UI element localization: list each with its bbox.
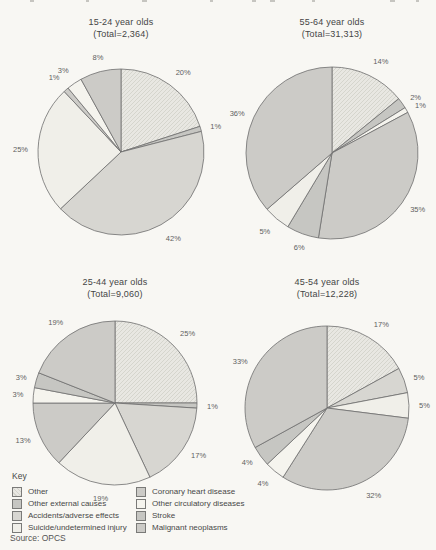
legend-item-other-external-causes: Other external causes <box>12 498 127 509</box>
pie-slice-percent-label: 6% <box>294 243 305 252</box>
pie-slice-percent-label: 19% <box>48 318 63 327</box>
legend-swatch <box>12 499 22 509</box>
pie-chart-15-24: 20%1%42%25%1%3%8% <box>13 53 221 243</box>
pie-slice-percent-label: 17% <box>374 320 389 329</box>
pie-slice-percent-label: 1% <box>207 402 218 411</box>
pie-slice-percent-label: 20% <box>176 68 191 77</box>
pie-slice-percent-label: 36% <box>230 109 245 118</box>
pie-slice-percent-label: 33% <box>233 357 248 366</box>
pie-slice-percent-label: 17% <box>191 451 206 460</box>
legend-key-label: Key <box>12 471 27 481</box>
legend-swatch <box>136 487 146 497</box>
legend-swatch <box>12 487 22 497</box>
legend-item-other: Other <box>12 486 127 497</box>
pie-slice-percent-label: 4% <box>242 458 253 467</box>
legend-item-other-circulatory-diseases: Other circulatory diseases <box>136 498 244 509</box>
pie-slice-percent-label: 5% <box>419 401 430 410</box>
pie-chart-45-54: 17%5%5%32%4%4%33% <box>233 320 430 500</box>
pie-slice-percent-label: 1% <box>210 122 221 131</box>
pie-slice-percent-label: 32% <box>366 491 381 500</box>
legend-label: Malignant neoplasms <box>152 523 228 532</box>
pie-slice-percent-label: 25% <box>13 145 28 154</box>
scanned-chart-page: 15-24 year olds (Total=2,364) 55-64 year… <box>0 0 436 550</box>
pie-chart-25-44: 25%1%17%19%13%3%3%19% <box>13 318 219 503</box>
pie-slice-percent-label: 4% <box>258 479 269 488</box>
legend-item-suicide-undetermined-injury: Suicide/undetermined injury <box>12 522 127 533</box>
pie-slice-percent-label: 3% <box>58 66 69 75</box>
legend-item-accidents-adverse-effects: Accidents/adverse effects <box>12 510 127 521</box>
source-note: Source: OPCS <box>10 533 66 543</box>
pie-slice-percent-label: 8% <box>92 53 103 62</box>
legend-column-right: Coronary heart diseaseOther circulatory … <box>136 486 244 534</box>
legend-label: Suicide/undetermined injury <box>28 523 127 532</box>
legend-swatch <box>136 523 146 533</box>
legend-label: Accidents/adverse effects <box>28 511 119 520</box>
pie-chart-55-64: 14%2%1%35%6%5%36% <box>230 57 427 252</box>
pie-slice-percent-label: 5% <box>259 227 270 236</box>
legend-label: Other circulatory diseases <box>152 499 244 508</box>
legend-swatch <box>12 511 22 521</box>
legend-item-stroke: Stroke <box>136 510 244 521</box>
legend-swatch <box>136 499 146 509</box>
legend-item-malignant-neoplasms: Malignant neoplasms <box>136 522 244 533</box>
pie-slice-percent-label: 5% <box>414 373 425 382</box>
legend-column-left: OtherOther external causesAccidents/adve… <box>12 486 127 534</box>
legend-item-coronary-heart-disease: Coronary heart disease <box>136 486 244 497</box>
legend-swatch <box>136 511 146 521</box>
pie-charts-canvas: 20%1%42%25%1%3%8%14%2%1%35%6%5%36%25%1%1… <box>0 0 436 550</box>
pie-slice-percent-label: 3% <box>16 373 27 382</box>
pie-slice-percent-label: 25% <box>180 329 195 338</box>
legend-label: Other <box>28 487 48 496</box>
pie-slice-percent-label: 3% <box>13 390 24 399</box>
legend-label: Other external causes <box>28 499 106 508</box>
legend-label: Coronary heart disease <box>152 487 235 496</box>
legend-label: Stroke <box>152 511 175 520</box>
pie-slice-percent-label: 42% <box>166 234 181 243</box>
pie-slice-percent-label: 1% <box>415 101 426 110</box>
legend-swatch <box>12 523 22 533</box>
pie-slice-percent-label: 13% <box>16 436 31 445</box>
pie-slice-percent-label: 14% <box>373 57 388 66</box>
pie-slice-percent-label: 35% <box>410 205 425 214</box>
